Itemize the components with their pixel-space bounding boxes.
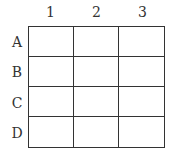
cell-a3 [119, 27, 164, 57]
column-label-1: 1 [28, 4, 73, 20]
cell-b1 [29, 57, 74, 87]
cell-c3 [119, 87, 164, 117]
grid-4x3 [28, 26, 165, 148]
column-label-2: 2 [74, 4, 119, 20]
cell-c1 [29, 87, 74, 117]
cell-d2 [74, 117, 119, 147]
cell-c2 [74, 87, 119, 117]
row-label-b: B [10, 64, 24, 80]
column-label-3: 3 [120, 4, 165, 20]
row-label-a: A [10, 34, 24, 50]
row-label-c: C [10, 95, 24, 111]
cell-d3 [119, 117, 164, 147]
cell-b2 [74, 57, 119, 87]
cell-a1 [29, 27, 74, 57]
cell-b3 [119, 57, 164, 87]
row-label-d: D [10, 125, 24, 141]
cell-d1 [29, 117, 74, 147]
cell-a2 [74, 27, 119, 57]
